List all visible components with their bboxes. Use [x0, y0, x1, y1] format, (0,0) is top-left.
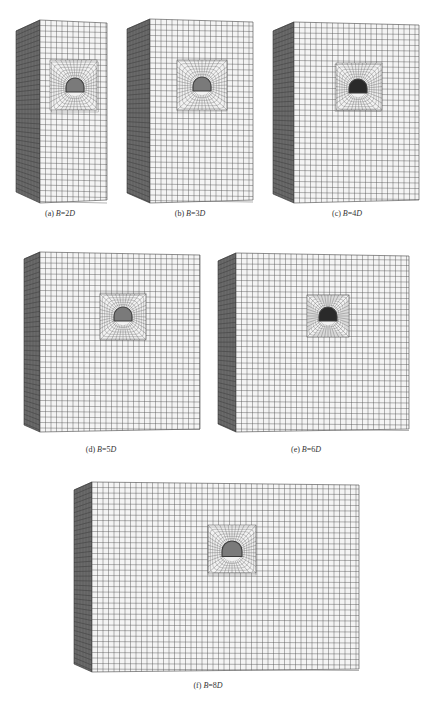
mesh-panel-d: [24, 252, 200, 432]
mesh-panel-a: [16, 20, 107, 203]
panel-caption-f: (f) B=8D: [193, 681, 222, 690]
front-face: [40, 252, 200, 432]
front-face: [92, 482, 359, 672]
panel-caption-a: (a) B=2D: [45, 209, 75, 218]
mesh-panel-f: [74, 482, 359, 672]
tunnel-section: [66, 78, 84, 92]
front-face: [40, 20, 107, 203]
tunnel-section: [319, 307, 337, 321]
panel-caption-d: (d) B=5D: [86, 445, 117, 454]
mesh-panel-b: [127, 19, 253, 203]
panel-caption-b: (b) B=3D: [175, 209, 206, 218]
tunnel-section: [193, 77, 211, 91]
panel-caption-c: (c) B=4D: [332, 209, 362, 218]
panel-caption-e: (e) B=6D: [291, 445, 321, 454]
mesh-panel-c: [273, 22, 419, 203]
tunnel-section: [349, 79, 367, 93]
front-face: [294, 22, 419, 203]
tunnel-section: [222, 541, 242, 557]
side-face: [24, 252, 40, 432]
mesh-canvas: [0, 0, 425, 705]
side-face: [127, 19, 150, 203]
tunnel-section: [114, 307, 132, 321]
mesh-panel-e: [218, 253, 409, 432]
